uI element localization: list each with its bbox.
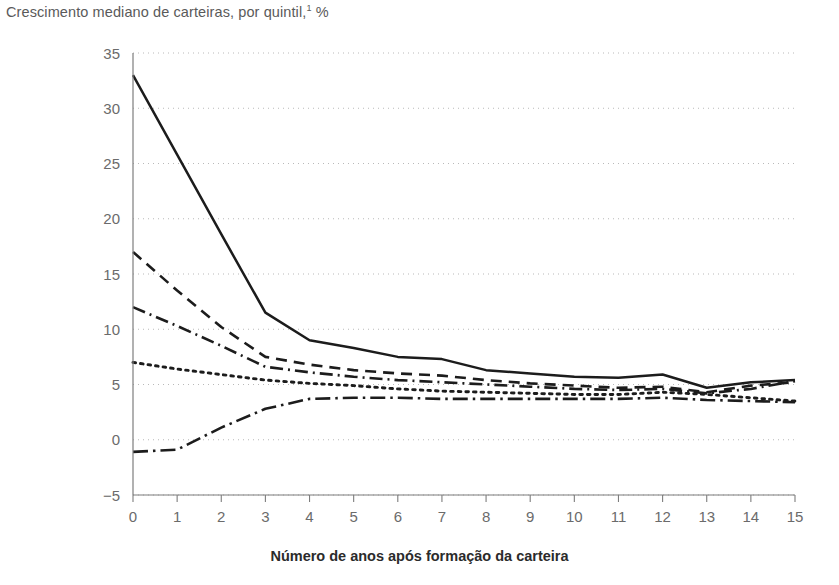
x-axis-tick-label: 2 bbox=[217, 508, 225, 525]
x-axis-tick-label: 11 bbox=[611, 508, 627, 525]
y-axis-tick-label: 15 bbox=[103, 266, 120, 283]
x-axis-tick-label: 8 bbox=[482, 508, 490, 525]
series-line bbox=[133, 398, 795, 452]
y-axis-tick-label: 20 bbox=[103, 210, 120, 227]
y-axis-tick-label: 30 bbox=[103, 100, 120, 117]
series-line bbox=[133, 75, 795, 388]
x-axis-tick-label: 7 bbox=[438, 508, 446, 525]
x-axis-tick-label: 1 bbox=[173, 508, 181, 525]
gridlines bbox=[133, 53, 795, 495]
series-line bbox=[133, 362, 795, 401]
y-axis-tick-label: −5 bbox=[103, 487, 120, 504]
y-axis-ticks: 35302520151050−5 bbox=[103, 45, 120, 504]
chart-figure: Crescimento mediano de carteiras, por qu… bbox=[0, 0, 839, 585]
x-axis-tick-label: 3 bbox=[261, 508, 269, 525]
y-axis-tick-label: 0 bbox=[112, 431, 120, 448]
y-axis-tick-label: 25 bbox=[103, 155, 120, 172]
x-axis-title: Número de anos após formação da carteira bbox=[0, 548, 839, 564]
x-axis-tick-label: 9 bbox=[526, 508, 534, 525]
x-axis-tick-label: 13 bbox=[698, 508, 715, 525]
x-axis-tick-label: 14 bbox=[743, 508, 760, 525]
chart-plot-area: 0123456789101112131415 35302520151050−5 bbox=[0, 0, 839, 545]
x-axis-tick-label: 15 bbox=[787, 508, 804, 525]
series-line bbox=[133, 307, 795, 393]
x-axis-tick-label: 5 bbox=[349, 508, 357, 525]
x-axis-ticks: 0123456789101112131415 bbox=[129, 495, 804, 525]
x-axis-tick-label: 4 bbox=[305, 508, 313, 525]
y-axis-tick-label: 5 bbox=[112, 376, 120, 393]
y-axis-tick-label: 10 bbox=[103, 321, 120, 338]
series-line bbox=[133, 252, 795, 392]
series-layer bbox=[133, 75, 795, 452]
y-axis-tick-label: 35 bbox=[103, 45, 120, 62]
x-axis-tick-label: 0 bbox=[129, 508, 137, 525]
x-axis-tick-label: 6 bbox=[394, 508, 402, 525]
x-axis-tick-label: 12 bbox=[654, 508, 671, 525]
x-axis-tick-label: 10 bbox=[566, 508, 583, 525]
